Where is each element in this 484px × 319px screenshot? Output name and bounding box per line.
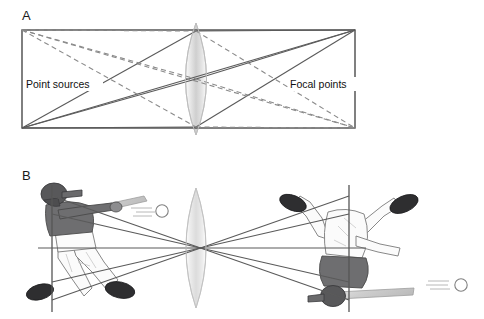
- baseball-right: [455, 279, 467, 291]
- panel-a-letter: A: [22, 8, 31, 23]
- focal-points-label-group: Focal points: [288, 77, 356, 91]
- hands-left: [110, 202, 122, 212]
- point-sources-label: Point sources: [26, 78, 90, 90]
- pants-right: [319, 256, 368, 288]
- point-sources-label-group: Point sources: [24, 77, 103, 91]
- panel-b-letter: B: [22, 168, 31, 183]
- baseball-left: [156, 205, 168, 217]
- optics-lens-diagram: A Point sourc: [0, 0, 484, 319]
- focal-points-label: Focal points: [290, 78, 347, 90]
